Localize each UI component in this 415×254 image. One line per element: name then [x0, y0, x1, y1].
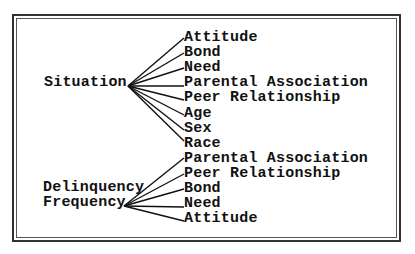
target-bond-2: Bond — [184, 181, 221, 196]
target-sex: Sex — [184, 121, 212, 136]
edge-delinquency-need — [124, 206, 184, 207]
target-need-2: Need — [184, 196, 221, 211]
edge-situation-need — [128, 68, 184, 86]
target-attitude-2: Attitude — [184, 211, 258, 226]
target-race: Race — [184, 136, 221, 151]
edge-situation-age — [128, 86, 184, 115]
target-attitude: Attitude — [184, 30, 258, 45]
target-parental-association: Parental Association — [184, 75, 368, 90]
edge-situation-bond — [128, 53, 184, 86]
target-age: Age — [184, 106, 212, 121]
target-peer-relationship: Peer Relationship — [184, 90, 340, 105]
target-parental-association-2: Parental Association — [184, 151, 368, 166]
node-delinquency: Delinquency — [43, 180, 144, 195]
edge-situation-attitude — [128, 38, 184, 86]
target-peer-relationship-2: Peer Relationship — [184, 166, 340, 181]
target-bond: Bond — [184, 45, 221, 60]
target-need: Need — [184, 60, 221, 75]
node-situation: Situation — [44, 75, 127, 90]
edge-delinquency-attitude — [124, 206, 184, 221]
node-frequency: Frequency — [43, 195, 126, 210]
edge-situation-race — [128, 86, 184, 141]
